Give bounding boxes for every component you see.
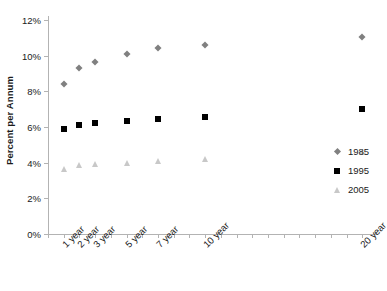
data-point-2005-7-year <box>155 158 161 164</box>
y-axis-line <box>48 16 49 238</box>
y-axis-title: Percent per Annum <box>0 0 18 240</box>
y-axis-tick-label: 6% <box>27 122 41 133</box>
data-point-1985-1-year <box>60 81 67 88</box>
x-axis-tick <box>237 234 238 238</box>
legend-label: 1995 <box>348 165 369 176</box>
data-point-2005-5-year <box>124 160 130 166</box>
data-point-2005-10-year <box>202 156 208 162</box>
y-axis-tick <box>44 56 48 57</box>
x-axis-label: 7 year <box>154 223 180 249</box>
x-axis-tick <box>299 234 300 238</box>
legend-item-1995[interactable]: 1995 <box>330 161 387 180</box>
data-point-2005-2-year <box>76 162 82 168</box>
data-point-1985-5-year <box>123 50 130 57</box>
y-axis-title-text: Percent per Annum <box>4 76 15 165</box>
y-axis-tick-label: 8% <box>27 86 41 97</box>
y-axis-tick-label: 0% <box>27 229 41 240</box>
data-point-1995-2-year <box>76 122 82 128</box>
legend-label: 1985 <box>348 146 369 157</box>
y-axis-tick <box>44 91 48 92</box>
data-point-1995-3-year <box>92 120 98 126</box>
data-point-1995-1-year <box>61 126 67 132</box>
plot-area: 0%2%4%6%8%10%12% 1 year2 year3 year5 yea… <box>48 20 378 234</box>
data-point-1995-7-year <box>155 116 161 122</box>
data-point-1995-10-year <box>202 114 208 120</box>
legend-label: 2005 <box>348 184 369 195</box>
x-axis-label: 5 year <box>123 223 149 249</box>
data-point-1985-3-year <box>92 58 99 65</box>
x-axis-tick <box>331 234 332 238</box>
legend-item-1985[interactable]: 1985 <box>330 142 387 161</box>
x-axis-tick <box>347 234 348 238</box>
x-axis-tick <box>252 234 253 238</box>
y-axis-tick <box>44 163 48 164</box>
data-point-1985-2-year <box>76 65 83 72</box>
legend-marker-diamond-icon <box>330 149 344 154</box>
y-axis-tick <box>44 234 48 235</box>
legend: 198519952005 <box>330 142 387 199</box>
data-point-2005-1-year <box>61 166 67 172</box>
data-point-1995-20-year <box>359 106 365 112</box>
y-axis-tick-label: 10% <box>22 50 41 61</box>
y-axis-tick <box>44 20 48 21</box>
data-point-1995-5-year <box>124 118 130 124</box>
data-point-1985-10-year <box>202 41 209 48</box>
legend-item-2005[interactable]: 2005 <box>330 180 387 199</box>
legend-marker-triangle-icon <box>330 187 344 193</box>
x-axis-tick <box>189 234 190 238</box>
y-axis-tick-label: 12% <box>22 15 41 26</box>
data-point-1985-20-year <box>359 33 366 40</box>
x-axis-tick <box>315 234 316 238</box>
y-axis-tick <box>44 198 48 199</box>
x-axis-tick <box>268 234 269 238</box>
y-axis-tick-label: 4% <box>27 157 41 168</box>
data-point-2005-3-year <box>92 161 98 167</box>
y-axis-tick-label: 2% <box>27 193 41 204</box>
y-axis-tick <box>44 127 48 128</box>
data-point-1985-7-year <box>154 44 161 51</box>
x-axis-tick <box>284 234 285 238</box>
legend-marker-square-icon <box>330 168 344 174</box>
chart-figure: Percent per Annum 0%2%4%6%8%10%12% 1 yea… <box>0 0 387 291</box>
